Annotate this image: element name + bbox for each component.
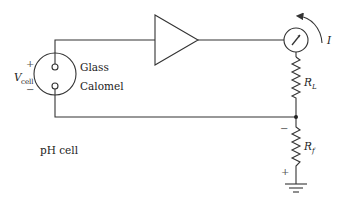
feedback-resistor-plus-sign: + <box>281 166 289 177</box>
cell-minus-sign: − <box>26 84 34 95</box>
feedback-resistor-subscript: f <box>311 147 316 155</box>
amplifier-symbol <box>155 15 198 65</box>
load-resistor-subscript: L <box>311 83 317 91</box>
load-resistor-icon <box>292 57 300 117</box>
cell-plus-sign: + <box>26 58 34 69</box>
glass-electrode-terminal-icon <box>52 64 58 70</box>
feedback-resistor-icon <box>292 117 300 184</box>
calomel-electrode-label: Calomel <box>80 80 124 92</box>
feedback-resistor-minus-sign: − <box>280 123 288 134</box>
calomel-electrode-terminal-icon <box>52 83 58 89</box>
ph-cell-caption: pH cell <box>40 144 79 156</box>
junction-node <box>294 115 298 119</box>
glass-electrode-label: Glass <box>80 61 109 73</box>
circuit-diagram: + V cell − Glass Calomel pH cell I R L R… <box>0 0 340 208</box>
feedback-resistor-symbol: R <box>303 140 312 152</box>
ground-icon <box>285 184 307 192</box>
current-label: I <box>326 34 332 46</box>
load-resistor-symbol: R <box>303 76 312 88</box>
